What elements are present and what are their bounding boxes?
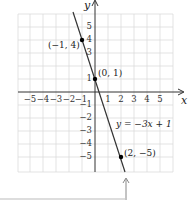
graph: x y −5 −4 −3 −2 −1 1 2 3 4 5 5 4 3 1 −1 …	[0, 0, 195, 200]
svg-text:−4: −4	[79, 138, 92, 148]
svg-text:−5: −5	[79, 151, 92, 161]
svg-text:−3: −3	[50, 94, 63, 104]
svg-text:2: 2	[118, 94, 123, 104]
svg-text:1: 1	[105, 94, 110, 104]
svg-text:−5: −5	[24, 94, 37, 104]
svg-text:4: 4	[87, 34, 92, 44]
svg-text:1: 1	[87, 73, 92, 83]
pointer-arrow-icon	[123, 178, 129, 200]
svg-text:−2: −2	[79, 112, 92, 122]
x-axis-label: x	[181, 94, 188, 107]
svg-text:−4: −4	[37, 94, 50, 104]
svg-text:−2: −2	[63, 94, 76, 104]
svg-text:5: 5	[157, 94, 162, 104]
point-label-neg1-4: (−1, 4)	[48, 40, 80, 50]
y-axis-label: y	[83, 0, 91, 12]
point-label-2-neg5: (2, −5)	[124, 148, 156, 158]
point-2-neg5	[119, 155, 123, 159]
svg-text:5: 5	[87, 21, 92, 31]
equation-label: y = −3x + 1	[115, 119, 172, 129]
svg-text:−3: −3	[79, 125, 92, 135]
svg-text:4: 4	[144, 94, 149, 104]
point-0-1	[93, 77, 97, 81]
svg-text:−1: −1	[79, 99, 92, 109]
point-neg1-4	[80, 38, 84, 42]
point-label-0-1: (0, 1)	[98, 68, 122, 78]
svg-text:3: 3	[131, 94, 136, 104]
x-tick-labels: −5 −4 −3 −2 −1 1 2 3 4 5	[24, 94, 163, 104]
